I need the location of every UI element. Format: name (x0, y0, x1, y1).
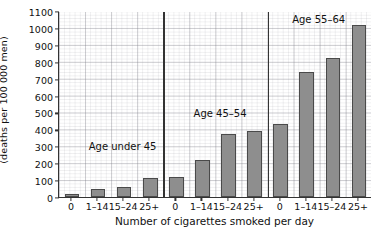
x-axis-title: Number of cigarettes smoked per day (58, 215, 371, 227)
x-tick-label: 0 (277, 201, 283, 212)
y-tick-mark (55, 11, 60, 12)
x-tick-label: 15–24 (109, 201, 138, 212)
y-tick-mark (55, 130, 60, 131)
y-tick-mark (55, 180, 60, 181)
x-tick-mark (97, 197, 98, 202)
x-tick-mark (331, 197, 332, 202)
x-tick-mark (357, 197, 358, 202)
y-tick-mark (55, 45, 60, 46)
x-tick-label: 1–14 (86, 201, 109, 212)
bar-2-2 (326, 58, 341, 197)
x-tick-mark (253, 197, 254, 202)
x-tick-label: 25+ (244, 201, 264, 212)
y-tick-mark (55, 113, 60, 114)
y-tick-mark (55, 62, 60, 63)
bar-chart-figure: Annual death rate (deaths per 100 000 me… (0, 0, 376, 232)
grid-lines (59, 12, 371, 197)
x-axis-ticks: 01–1415–2425+01–1415–2425+01–1415–2425+ (58, 201, 371, 215)
bar-0-2 (117, 187, 132, 197)
x-tick-mark (149, 197, 150, 202)
x-tick-mark (70, 197, 71, 202)
x-tick-label: 25+ (348, 201, 368, 212)
y-tick-mark (55, 164, 60, 165)
x-tick-label: 1–14 (190, 201, 213, 212)
bar-1-2 (221, 134, 236, 197)
y-tick-mark (55, 197, 60, 198)
y-tick-mark (55, 96, 60, 97)
y-tick-mark (55, 147, 60, 148)
y-tick-mark (55, 28, 60, 29)
bar-2-1 (299, 72, 314, 197)
bar-1-3 (247, 131, 262, 197)
bar-1-1 (195, 160, 210, 197)
group-annotation-1: Age 45–54 (194, 108, 247, 119)
bar-2-3 (352, 25, 367, 197)
group-annotation-2: Age 55–64 (292, 14, 345, 25)
x-tick-mark (305, 197, 306, 202)
x-tick-mark (201, 197, 202, 202)
x-tick-mark (279, 197, 280, 202)
x-tick-label: 15–24 (213, 201, 242, 212)
group-separator-0 (163, 12, 164, 197)
x-tick-label: 1–14 (294, 201, 317, 212)
x-tick-mark (123, 197, 124, 202)
bar-0-0 (65, 194, 80, 197)
y-tick-mark (55, 79, 60, 80)
group-annotation-0: Age under 45 (89, 141, 157, 152)
bar-1-0 (169, 177, 184, 197)
group-separator-1 (268, 12, 269, 197)
x-tick-label: 25+ (139, 201, 159, 212)
x-tick-label: 0 (172, 201, 178, 212)
x-tick-mark (227, 197, 228, 202)
x-tick-label: 15–24 (317, 201, 346, 212)
y-axis-title-line-2: (deaths per 100 000 men) (0, 36, 9, 163)
bar-0-1 (91, 189, 106, 197)
bar-2-0 (273, 124, 288, 197)
bar-0-3 (143, 178, 158, 197)
plot-area: 010020030040050060070080090010001100 Age… (58, 12, 371, 198)
x-tick-mark (175, 197, 176, 202)
x-tick-label: 0 (68, 201, 74, 212)
